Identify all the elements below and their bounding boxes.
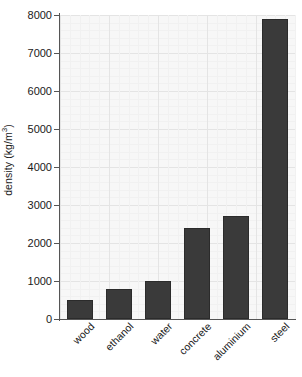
y-tick-label: 8000 [4, 10, 52, 21]
y-tick-mark [54, 243, 59, 244]
x-tick-label: ethanol [102, 320, 135, 353]
x-tick-label: water [148, 320, 175, 347]
x-tick-label: concrete [177, 320, 214, 357]
y-tick-mark [54, 281, 59, 282]
y-axis-ticks: 010002000300040005000600070008000 [0, 0, 52, 377]
y-tick-mark [54, 319, 59, 320]
bar [184, 228, 210, 319]
gridline-vertical [295, 15, 296, 319]
x-tick-label: steel [268, 320, 292, 344]
y-tick-mark [54, 205, 59, 206]
y-tick-mark [54, 91, 59, 92]
x-tick-label: wood [70, 320, 96, 346]
y-tick-mark [54, 15, 59, 16]
y-tick-mark [54, 53, 59, 54]
density-bar-chart: density (kg/m3) 010002000300040005000600… [0, 0, 302, 377]
y-tick-label: 1000 [4, 276, 52, 287]
y-tick-mark [54, 129, 59, 130]
x-tick-label: aluminium [210, 320, 252, 362]
y-tick-label: 7000 [4, 48, 52, 59]
bar [145, 281, 171, 319]
bars-group [60, 15, 295, 319]
bar [106, 289, 132, 319]
y-tick-label: 3000 [4, 200, 52, 211]
bar [67, 300, 93, 319]
y-tick-label: 0 [4, 314, 52, 325]
y-tick-label: 6000 [4, 86, 52, 97]
bar [262, 19, 288, 319]
x-axis-ticks: woodethanolwaterconcretealuminiumsteel [60, 320, 300, 377]
y-tick-mark [54, 167, 59, 168]
bar [223, 216, 249, 319]
y-tick-label: 5000 [4, 124, 52, 135]
y-tick-label: 2000 [4, 238, 52, 249]
y-tick-label: 4000 [4, 162, 52, 173]
